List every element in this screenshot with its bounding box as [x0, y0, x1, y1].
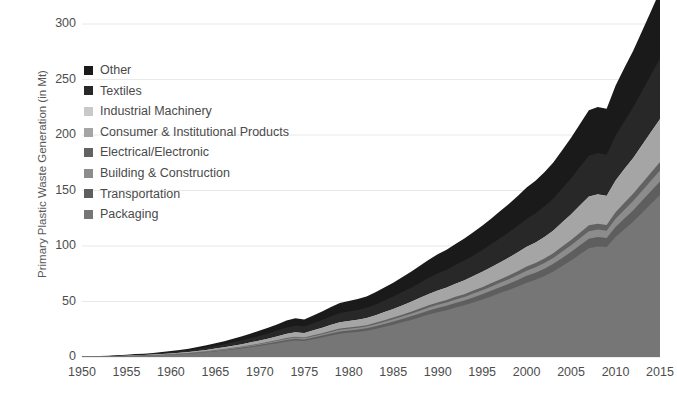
legend-item-label: Packaging	[100, 208, 158, 221]
legend-item-label: Other	[100, 64, 131, 77]
legend-swatch-icon	[84, 128, 93, 137]
legend-swatch-icon	[84, 148, 93, 157]
legend-swatch-icon	[84, 210, 93, 219]
legend-swatch-icon	[84, 169, 93, 178]
legend-item[interactable]: Industrial Machinery	[84, 101, 289, 122]
legend-item[interactable]: Building & Construction	[84, 163, 289, 184]
legend-item[interactable]: Transportation	[84, 184, 289, 205]
legend-item[interactable]: Electrical/Electronic	[84, 142, 289, 163]
legend-item[interactable]: Other	[84, 60, 289, 81]
chart-legend: OtherTextilesIndustrial MachineryConsume…	[84, 60, 289, 225]
legend-item-label: Industrial Machinery	[100, 105, 212, 118]
stacked-area-chart: Primary Plastic Waste Generation (in Mt)…	[0, 0, 677, 414]
legend-item-label: Building & Construction	[100, 167, 230, 180]
legend-item-label: Textiles	[100, 85, 142, 98]
legend-item-label: Transportation	[100, 188, 180, 201]
legend-item[interactable]: Textiles	[84, 81, 289, 102]
legend-swatch-icon	[84, 86, 93, 95]
legend-item-label: Electrical/Electronic	[100, 146, 209, 159]
legend-item[interactable]: Packaging	[84, 204, 289, 225]
x-tick-label: 2015	[630, 366, 677, 379]
x-axis-tick-labels: 1950195519601965197019751980198519901995…	[0, 366, 677, 390]
legend-swatch-icon	[84, 107, 93, 116]
legend-item-label: Consumer & Institutional Products	[100, 126, 289, 139]
legend-swatch-icon	[84, 66, 93, 75]
legend-item[interactable]: Consumer & Institutional Products	[84, 122, 289, 143]
legend-swatch-icon	[84, 189, 93, 198]
